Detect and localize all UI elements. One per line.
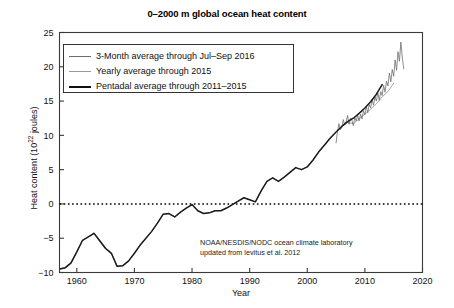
chart-figure: 0–2000 m global ocean heat content 25201… xyxy=(0,0,454,308)
x-axis-title: Year xyxy=(59,288,423,298)
y-axis-title: Heat content (1022 joules) xyxy=(27,73,39,243)
y-tick-label: 0 xyxy=(48,199,53,209)
legend-item-3-month: 3-Month average through Jul–Sep 2016 xyxy=(69,48,288,63)
x-tick-label: 1960 xyxy=(67,276,87,286)
y-tick-label: 20 xyxy=(43,62,53,72)
y-axis-title-tail: joules) xyxy=(29,107,39,136)
y-tick-label: 15 xyxy=(43,96,53,106)
annotation-line-1: NOAA/NESDIS/NODC ocean climate laborator… xyxy=(200,238,420,248)
x-tick-label: 1980 xyxy=(182,276,202,286)
x-tick-label: 1970 xyxy=(124,276,144,286)
data-series-line xyxy=(336,42,404,143)
y-tick-label: −10 xyxy=(38,268,53,278)
legend-label-yearly: Yearly average through 2015 xyxy=(96,66,211,76)
y-tick-label: 5 xyxy=(48,165,53,175)
legend-label-pentadal: Pentadal average through 2011–2015 xyxy=(96,81,246,91)
legend-swatch-pentadal xyxy=(69,81,91,91)
y-tick-label: −5 xyxy=(43,233,53,243)
chart-legend: 3-Month average through Jul–Sep 2016 Yea… xyxy=(63,44,294,93)
legend-label-3-month: 3-Month average through Jul–Sep 2016 xyxy=(96,51,255,61)
y-tick-label: 25 xyxy=(43,28,53,38)
legend-item-pentadal: Pentadal average through 2011–2015 xyxy=(69,78,288,93)
y-axis-title-exponent: 22 xyxy=(27,136,34,143)
x-tick-label: 2000 xyxy=(297,276,317,286)
legend-swatch-yearly xyxy=(69,66,91,76)
annotation-line-2: updated from levitus et al. 2012 xyxy=(200,248,420,258)
source-annotation: NOAA/NESDIS/NODC ocean climate laborator… xyxy=(200,238,420,257)
x-tick-label: 2010 xyxy=(355,276,375,286)
x-tick-label: 1990 xyxy=(240,276,260,286)
legend-swatch-3-month xyxy=(69,51,91,61)
legend-item-yearly: Yearly average through 2015 xyxy=(69,63,288,78)
y-axis-title-base: Heat content (10 xyxy=(29,143,39,210)
x-tick-label: 2020 xyxy=(412,276,432,286)
y-tick-label: 10 xyxy=(43,131,53,141)
